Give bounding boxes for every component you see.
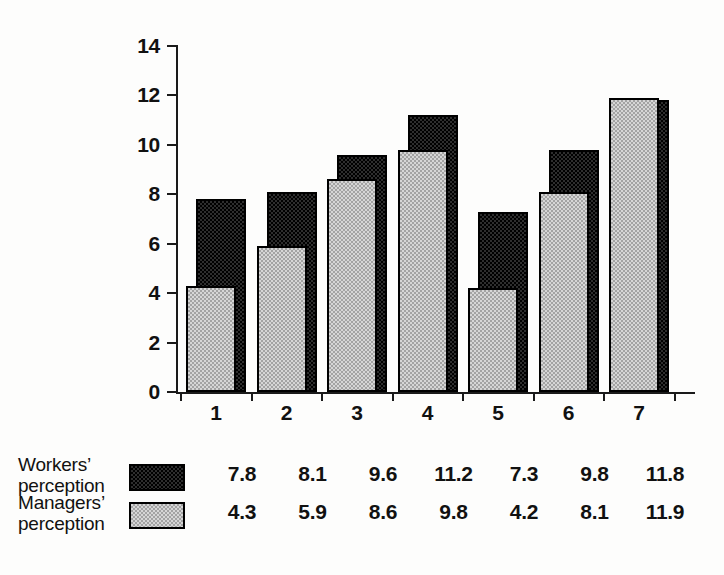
y-tick-mark: 12 [167, 94, 176, 96]
y-tick-label: 6 [149, 232, 160, 256]
y-tick-label: 2 [149, 331, 160, 355]
legend-label-managers: Managers’ perception [18, 492, 120, 534]
bar-managers-5 [468, 288, 518, 392]
x-tick-mark [392, 394, 394, 401]
x-tick-mark [603, 394, 605, 401]
value-managers-1: 4.3 [207, 500, 277, 524]
value-managers-2: 5.9 [278, 500, 348, 524]
x-tick-mark [533, 394, 535, 401]
value-workers-2: 8.1 [278, 462, 348, 486]
y-tick-label: 14 [137, 34, 160, 58]
legend-values-workers: 7.88.19.611.27.39.811.8 [198, 462, 708, 492]
bar-managers-3 [327, 179, 377, 392]
legend-row-workers: Workers’ perception 7.88.19.611.27.39.81… [18, 462, 708, 498]
x-tick-mark [674, 394, 676, 401]
legend-row-managers: Managers’ perception 4.35.98.69.84.28.11… [18, 500, 708, 536]
bar-managers-2 [257, 246, 307, 392]
legend-label-managers-line1: Managers’ [18, 492, 105, 513]
y-tick-mark: 0 [167, 391, 176, 393]
x-tick-mark [321, 394, 323, 401]
value-workers-3: 9.6 [348, 462, 418, 486]
y-tick-label: 10 [137, 133, 160, 157]
bar-managers-1 [186, 286, 236, 392]
chart-figure: 02468101214 1234567 Workers’ perception … [0, 0, 724, 575]
y-tick-label: 12 [137, 83, 160, 107]
x-tick-label-4: 4 [408, 401, 448, 425]
x-tick-label-3: 3 [337, 401, 377, 425]
legend-label-workers-line1: Workers’ [18, 454, 91, 475]
legend-swatch-workers [129, 464, 185, 491]
x-tick-label-2: 2 [267, 401, 307, 425]
y-tick-label: 0 [149, 380, 160, 404]
y-tick-mark: 8 [167, 193, 176, 195]
x-axis-line [176, 392, 695, 394]
y-tick-mark: 4 [167, 292, 176, 294]
legend-label-managers-line2: perception [18, 513, 105, 534]
x-tick-label-5: 5 [478, 401, 518, 425]
bar-managers-4 [398, 150, 448, 392]
legend-swatch-managers [129, 502, 185, 529]
y-tick-mark: 10 [167, 144, 176, 146]
value-workers-6: 9.8 [560, 462, 630, 486]
y-tick-label: 8 [149, 182, 160, 206]
y-tick-label: 4 [149, 281, 160, 305]
value-managers-5: 4.2 [489, 500, 559, 524]
x-tick-mark [180, 394, 182, 401]
legend-values-managers: 4.35.98.69.84.28.111.9 [198, 500, 708, 530]
x-tick-label-6: 6 [549, 401, 589, 425]
value-workers-5: 7.3 [489, 462, 559, 486]
value-managers-3: 8.6 [348, 500, 418, 524]
value-workers-1: 7.8 [207, 462, 277, 486]
x-tick-mark [251, 394, 253, 401]
value-managers-7: 11.9 [630, 500, 700, 524]
y-tick-mark: 2 [167, 342, 176, 344]
x-tick-mark [462, 394, 464, 401]
plot-area: 02468101214 1234567 [176, 45, 688, 393]
value-managers-4: 9.8 [419, 500, 489, 524]
legend-label-workers: Workers’ perception [18, 454, 120, 496]
value-workers-4: 11.2 [419, 462, 489, 486]
x-tick-label-7: 7 [619, 401, 659, 425]
y-tick-mark: 6 [167, 243, 176, 245]
value-workers-7: 11.8 [630, 462, 700, 486]
y-axis-line [176, 45, 178, 393]
bar-managers-7 [609, 98, 659, 392]
x-tick-label-1: 1 [196, 401, 236, 425]
value-managers-6: 8.1 [560, 500, 630, 524]
y-tick-mark: 14 [167, 45, 176, 47]
bar-managers-6 [539, 192, 589, 392]
